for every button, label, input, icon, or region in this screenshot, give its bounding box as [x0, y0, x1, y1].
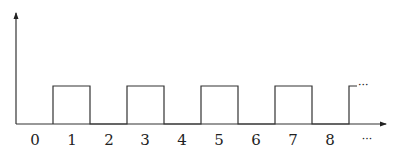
x-label-0: 0 — [30, 131, 40, 149]
x-label-7: 7 — [288, 131, 298, 149]
pulse-waveform — [53, 86, 357, 124]
x-label-4: 4 — [177, 131, 187, 149]
continuation-dots-top: ··· — [358, 79, 369, 92]
x-label-1: 1 — [67, 131, 77, 149]
square-wave-diagram: ··· 0 1 2 3 4 5 6 7 8 ··· — [0, 0, 397, 154]
x-label-2: 2 — [104, 131, 114, 149]
x-label-3: 3 — [140, 131, 150, 149]
x-label-5: 5 — [214, 131, 224, 149]
x-label-6: 6 — [251, 131, 261, 149]
x-label-ellipsis: ··· — [362, 133, 373, 146]
x-label-8: 8 — [325, 131, 335, 149]
